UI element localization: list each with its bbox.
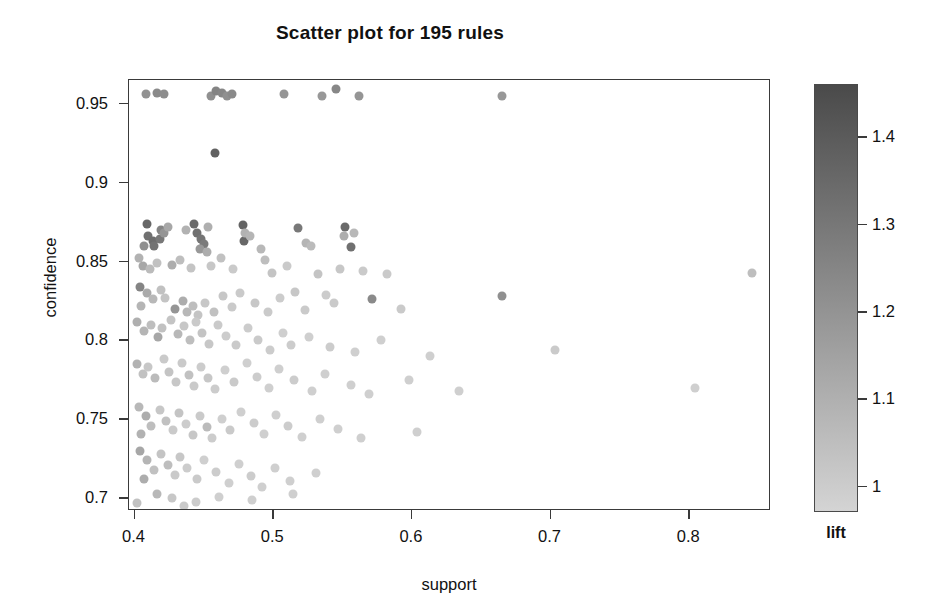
y-tick-mark xyxy=(119,339,128,341)
x-tick-label: 0.7 xyxy=(538,527,561,546)
data-point xyxy=(181,420,190,429)
data-point xyxy=(364,390,373,399)
data-point xyxy=(245,232,254,241)
data-point xyxy=(227,303,236,312)
data-point xyxy=(215,492,224,501)
x-tick-label: 0.8 xyxy=(677,527,700,546)
colorbar-tick-mark xyxy=(858,398,867,400)
data-point xyxy=(270,464,279,473)
data-point xyxy=(377,336,386,345)
data-point xyxy=(179,297,188,306)
data-point xyxy=(312,469,321,478)
data-point xyxy=(252,372,261,381)
data-point xyxy=(316,415,325,424)
data-point xyxy=(154,333,163,342)
data-point xyxy=(137,429,146,438)
data-point xyxy=(162,417,171,426)
data-point xyxy=(339,232,348,241)
x-tick-label: 0.4 xyxy=(122,527,145,546)
data-point xyxy=(351,347,360,356)
data-point xyxy=(230,377,239,386)
y-tick-label: 0.8 xyxy=(38,330,108,349)
data-point xyxy=(288,489,297,498)
data-point xyxy=(320,369,329,378)
data-point xyxy=(140,475,149,484)
data-point xyxy=(186,336,195,345)
data-point xyxy=(278,328,287,337)
scatter-plot-figure: Scatter plot for 195 rules support confi… xyxy=(0,0,951,616)
y-tick-mark xyxy=(119,103,128,105)
data-point xyxy=(152,489,161,498)
data-point xyxy=(294,224,303,233)
data-point xyxy=(155,405,164,414)
data-point xyxy=(191,497,200,506)
data-point xyxy=(141,412,150,421)
data-point xyxy=(187,263,196,272)
data-point xyxy=(405,375,414,384)
data-point xyxy=(212,467,221,476)
data-point xyxy=(306,241,315,250)
data-point xyxy=(284,421,293,430)
x-tick-label: 0.6 xyxy=(399,527,422,546)
data-point xyxy=(690,383,699,392)
data-point xyxy=(242,358,251,367)
data-point xyxy=(181,225,190,234)
data-point xyxy=(317,91,326,100)
data-point xyxy=(202,248,211,257)
data-point xyxy=(396,304,405,313)
y-tick-label: 0.85 xyxy=(38,251,108,270)
data-point xyxy=(188,431,197,440)
plot-area xyxy=(128,79,770,510)
data-point xyxy=(170,304,179,313)
data-point xyxy=(158,323,167,332)
data-point xyxy=(183,464,192,473)
data-point xyxy=(259,429,268,438)
data-point xyxy=(219,292,228,301)
data-point xyxy=(285,477,294,486)
data-point xyxy=(206,262,215,271)
data-point xyxy=(151,374,160,383)
data-point xyxy=(213,320,222,329)
data-point xyxy=(226,426,235,435)
x-tick-mark xyxy=(134,510,136,519)
data-point xyxy=(326,342,335,351)
data-point xyxy=(180,502,189,510)
data-point xyxy=(224,478,233,487)
data-point xyxy=(152,259,161,268)
data-point xyxy=(190,382,199,391)
data-point xyxy=(161,293,170,302)
lift-colorbar xyxy=(814,84,858,512)
data-point xyxy=(497,91,506,100)
data-point xyxy=(346,243,355,252)
data-point xyxy=(144,363,153,372)
data-point xyxy=(313,270,322,279)
colorbar-tick-mark xyxy=(858,136,867,138)
data-point xyxy=(356,434,365,443)
data-point xyxy=(198,328,207,337)
data-point xyxy=(260,255,269,264)
x-tick-label: 0.5 xyxy=(261,527,284,546)
data-point xyxy=(133,360,142,369)
data-point xyxy=(204,222,213,231)
data-point xyxy=(276,293,285,302)
data-point xyxy=(355,91,364,100)
colorbar-tick-mark xyxy=(858,311,867,313)
x-tick-mark xyxy=(688,510,690,519)
data-point xyxy=(263,308,272,317)
data-point xyxy=(201,298,210,307)
y-tick-label: 0.75 xyxy=(38,409,108,428)
data-point xyxy=(136,447,145,456)
data-point xyxy=(253,336,262,345)
x-axis-label: support xyxy=(128,575,770,594)
data-point xyxy=(413,428,422,437)
data-point xyxy=(249,418,258,427)
colorbar-tick-label: 1.3 xyxy=(872,214,895,233)
data-point xyxy=(172,377,181,386)
y-tick-mark xyxy=(119,261,128,263)
data-point xyxy=(188,301,197,310)
data-point xyxy=(747,268,756,277)
data-point xyxy=(349,229,358,238)
data-point xyxy=(331,85,340,94)
data-point xyxy=(202,423,211,432)
colorbar-tick-mark xyxy=(858,224,867,226)
